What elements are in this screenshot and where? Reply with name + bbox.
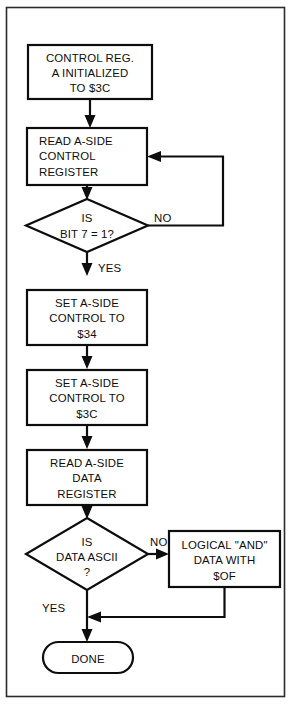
edge-label-ascii-no: NO xyxy=(150,536,167,548)
node-text-line: REGISTER xyxy=(39,166,98,178)
node-text-line: $3C xyxy=(76,408,97,420)
node-text-line: DATA xyxy=(72,472,102,484)
node-text-line: READ A-SIDE xyxy=(39,135,113,147)
edge-set34-to-set3c xyxy=(82,345,93,369)
node-text-line: $34 xyxy=(77,328,96,340)
node-read-data-register: READ A-SIDE DATA REGISTER xyxy=(27,450,147,505)
node-set-control-34: SET A-SIDE CONTROL TO $34 xyxy=(27,290,147,345)
arrow-head-icon xyxy=(82,263,93,276)
node-text-line: TO $3C xyxy=(70,82,111,94)
edge-bit7-yes-to-set34 xyxy=(82,252,93,276)
node-text-line: IS xyxy=(81,536,92,548)
node-text-line: CONTROL TO xyxy=(49,392,124,404)
figure-frame xyxy=(7,8,285,697)
arrow-head-icon xyxy=(156,549,169,560)
node-text-line: CONTROL TO xyxy=(49,312,124,324)
node-text-line: LOGICAL "AND" xyxy=(181,539,267,551)
decision-diamond xyxy=(26,199,148,252)
edge-init-to-read-control xyxy=(85,99,96,128)
edge-label-ascii-yes: YES xyxy=(42,602,65,614)
arrow-head-icon xyxy=(87,612,101,623)
node-done-terminator: DONE xyxy=(43,642,133,673)
node-text-line: ? xyxy=(84,566,91,578)
flowchart-canvas: CONTROL REG. A INITIALIZED TO $3C READ A… xyxy=(0,0,295,714)
node-text-line: READ A-SIDE xyxy=(50,457,124,469)
node-control-reg-init: CONTROL REG. A INITIALIZED TO $3C xyxy=(28,45,152,99)
edge-read-control-to-bit7 xyxy=(82,185,93,200)
arrow-head-icon xyxy=(82,629,93,642)
node-text-line: DONE xyxy=(71,653,105,665)
node-text-line: REGISTER xyxy=(57,488,116,500)
node-text-line: A INITIALIZED xyxy=(52,67,129,79)
node-text-line: BIT 7 = 1? xyxy=(60,228,114,240)
arrow-head-icon xyxy=(82,436,93,449)
edge-ascii-no-to-logical-and xyxy=(148,549,169,560)
node-text-line: CONTROL xyxy=(39,150,96,162)
node-set-control-3c: SET A-SIDE CONTROL TO $3C xyxy=(27,370,147,425)
arrow-head-icon xyxy=(85,115,96,128)
node-text-line: CONTROL REG. xyxy=(46,52,134,64)
edge-set3c-to-read-data xyxy=(82,425,93,449)
edge-label-bit7-no: NO xyxy=(154,212,171,224)
node-text-line: SET A-SIDE xyxy=(55,377,119,389)
node-text-line: SET A-SIDE xyxy=(55,297,119,309)
node-decision-bit7: IS BIT 7 = 1? xyxy=(26,199,148,252)
node-text-line: $OF xyxy=(213,570,236,582)
node-text-line: IS xyxy=(81,212,92,224)
node-read-control-register: READ A-SIDE CONTROL REGISTER xyxy=(27,128,147,185)
arrow-head-icon xyxy=(82,356,93,369)
edge-label-bit7-yes: YES xyxy=(98,262,121,274)
node-logical-and: LOGICAL "AND" DATA WITH $OF xyxy=(169,531,280,587)
node-text-line: DATA ASCII xyxy=(56,551,118,563)
node-decision-data-ascii: IS DATA ASCII ? xyxy=(26,518,148,590)
arrow-head-icon xyxy=(147,151,161,162)
edge-logical-and-return xyxy=(87,587,225,623)
node-text-line: DATA WITH xyxy=(194,554,256,566)
flowchart-figure: CONTROL REG. A INITIALIZED TO $3C READ A… xyxy=(0,0,295,714)
